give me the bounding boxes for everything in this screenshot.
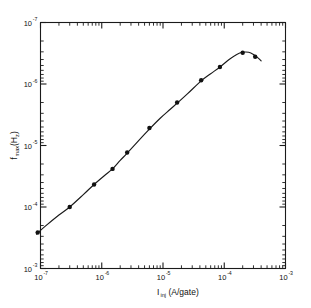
x-tick-label: 10-3 xyxy=(279,270,293,281)
data-point xyxy=(218,65,222,69)
x-tick-label: 10-7 xyxy=(34,270,48,281)
x-tick-label-base: 10 xyxy=(279,273,287,282)
data-point xyxy=(36,230,40,234)
data-point xyxy=(175,100,179,104)
y-axis-title-rest: (H xyxy=(9,137,19,146)
x-tick-label-base: 10 xyxy=(157,273,165,282)
x-tick-label-exp: -4 xyxy=(227,270,232,276)
y-axis-title-sub: max xyxy=(14,146,20,157)
data-point xyxy=(110,167,114,171)
y-axis-title-end: ) xyxy=(9,131,19,134)
y-tick-label-exp: -7 xyxy=(33,16,38,22)
data-point xyxy=(147,126,151,130)
x-tick-label-base: 10 xyxy=(96,273,104,282)
x-tick-label-base: 10 xyxy=(218,273,226,282)
x-tick-label: 10-4 xyxy=(218,270,232,281)
y-tick-label: 10-5 xyxy=(24,139,38,150)
x-tick-label-exp: -6 xyxy=(105,270,110,276)
x-axis-title-main: I xyxy=(157,287,159,297)
x-tick-label: 10-5 xyxy=(157,270,171,281)
data-point xyxy=(68,205,72,209)
data-point xyxy=(253,55,257,59)
y-tick-label-base: 10 xyxy=(24,142,32,151)
y-tick-label-exp: -5 xyxy=(33,139,38,145)
y-tick-label: 10-6 xyxy=(24,78,38,89)
x-axis-title-rest: (A/gate) xyxy=(169,287,199,297)
y-tick-label-base: 10 xyxy=(24,19,32,28)
log-log-plot: 10-710-610-510-410-310-710-610-510-410-3… xyxy=(0,0,311,308)
figure-container: 10-710-610-510-410-310-710-610-510-410-3… xyxy=(0,0,311,308)
data-point xyxy=(125,150,129,154)
x-axis-title-sub: inj xyxy=(160,292,166,298)
plot-frame xyxy=(41,23,286,269)
data-point xyxy=(240,51,244,55)
y-tick-label-base: 10 xyxy=(24,203,32,212)
y-tick-label-exp: -6 xyxy=(33,78,38,84)
data-points xyxy=(36,51,258,235)
y-axis-title: fmax(Hz) xyxy=(9,131,20,160)
data-point xyxy=(92,182,96,186)
x-tick-label-exp: -3 xyxy=(288,270,293,276)
x-tick-label-exp: -7 xyxy=(43,270,48,276)
y-tick-label: 10-4 xyxy=(24,201,38,212)
data-point xyxy=(199,78,203,82)
x-tick-label: 10-6 xyxy=(96,270,110,281)
y-tick-label: 10-7 xyxy=(24,16,38,27)
x-axis-title: Iinj (A/gate) xyxy=(157,287,199,298)
y-tick-label-exp: -4 xyxy=(33,201,38,207)
y-tick-label-base: 10 xyxy=(24,80,32,89)
y-tick-label-exp: -3 xyxy=(33,262,38,268)
x-tick-label-base: 10 xyxy=(34,273,42,282)
y-tick-label-base: 10 xyxy=(24,265,32,274)
x-tick-label-exp: -5 xyxy=(166,270,171,276)
